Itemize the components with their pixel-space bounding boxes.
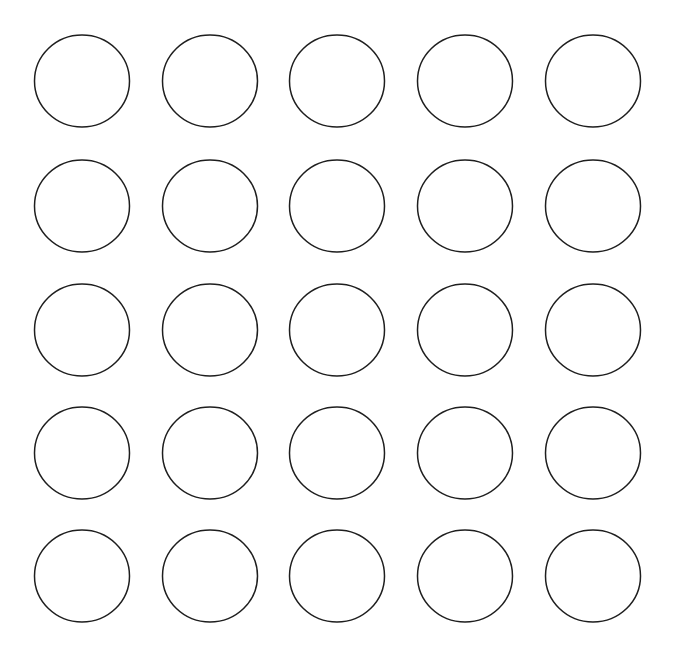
background — [0, 0, 677, 651]
circle-grid-diagram — [0, 0, 677, 651]
